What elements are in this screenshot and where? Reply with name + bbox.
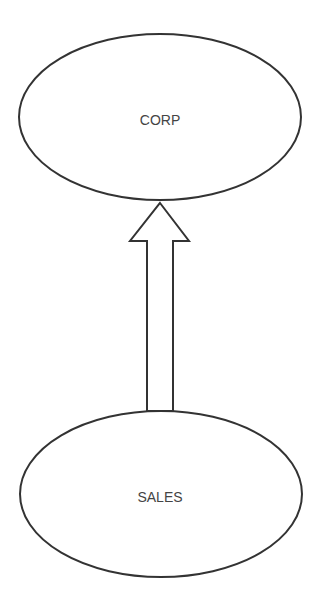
up-arrow-icon [130, 203, 189, 411]
sales-node-label: SALES [137, 489, 182, 505]
corp-node-label: CORP [140, 112, 180, 128]
diagram-canvas [0, 0, 322, 606]
